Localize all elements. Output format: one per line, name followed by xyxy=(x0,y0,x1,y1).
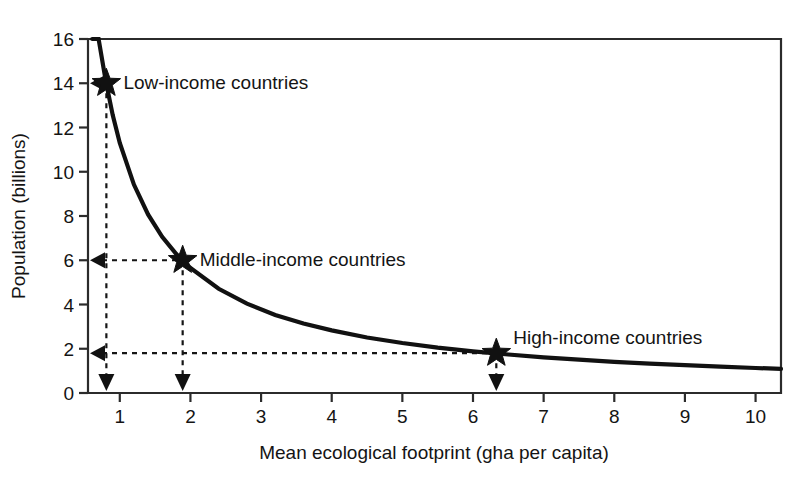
label-low-income-countries: Low-income countries xyxy=(123,72,308,93)
y-axis-ticks xyxy=(79,39,88,393)
guide-arrow-left xyxy=(90,345,105,361)
y-tick-label: 12 xyxy=(53,118,74,139)
y-tick-label: 2 xyxy=(63,339,74,360)
x-tick-label: 5 xyxy=(397,406,408,427)
population-footprint-chart: 12345678910 0246810121416 Low-income cou… xyxy=(0,0,811,480)
x-tick-label: 10 xyxy=(745,406,766,427)
y-tick-label: 4 xyxy=(63,295,74,316)
y-tick-label: 8 xyxy=(63,206,74,227)
guide-arrow-down xyxy=(488,374,504,391)
annotation-guide-lines xyxy=(90,75,504,391)
x-tick-label: 9 xyxy=(680,406,691,427)
label-middle-income-countries: Middle-income countries xyxy=(200,249,406,270)
guide-arrow-down xyxy=(98,374,114,391)
y-axis-title: Population (billions) xyxy=(8,133,29,299)
y-tick-label: 6 xyxy=(63,250,74,271)
x-tick-label: 1 xyxy=(114,406,125,427)
y-tick-label: 16 xyxy=(53,29,74,50)
guide-arrow-left xyxy=(90,252,105,268)
y-tick-label: 14 xyxy=(53,73,75,94)
x-axis-title: Mean ecological footprint (gha per capit… xyxy=(259,442,609,463)
x-tick-label: 4 xyxy=(326,406,337,427)
x-axis-ticks xyxy=(120,393,756,402)
x-tick-label: 8 xyxy=(609,406,620,427)
x-tick-label: 2 xyxy=(185,406,196,427)
y-axis-tick-labels: 0246810121416 xyxy=(53,29,75,404)
y-tick-label: 10 xyxy=(53,162,74,183)
x-tick-label: 3 xyxy=(256,406,267,427)
y-tick-label: 0 xyxy=(63,383,74,404)
star-marker-high-income xyxy=(482,338,511,365)
x-axis-tick-labels: 12345678910 xyxy=(114,406,766,427)
chart-figure: 12345678910 0246810121416 Low-income cou… xyxy=(0,0,811,480)
x-tick-label: 6 xyxy=(468,406,479,427)
guide-arrow-down xyxy=(175,374,191,391)
label-high-income-countries: High-income countries xyxy=(513,327,702,348)
x-tick-label: 7 xyxy=(538,406,549,427)
